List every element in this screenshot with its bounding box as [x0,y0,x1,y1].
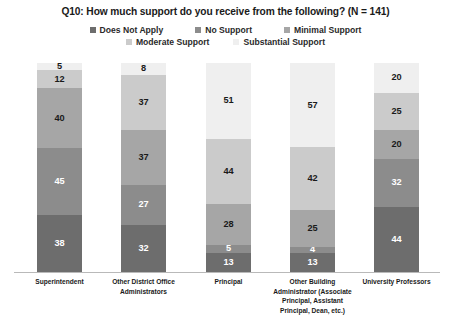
bar-column[interactable]: 512404538 [37,63,82,272]
bar-segment-value: 44 [223,167,233,176]
legend-label: Does Not Apply [100,25,164,35]
legend-swatch-icon [284,27,290,33]
bar-segment-value: 20 [391,140,401,149]
bar-segment[interactable]: 57 [290,63,335,147]
chart-title: Q10: How much support do you receive fro… [0,6,451,17]
category-label-line: Administrators [91,287,196,297]
bar-stack: 512404538 [37,63,82,272]
plot-area: 5124045388373727325144285135742254132025… [0,63,451,272]
bar-segment-value: 28 [223,220,233,229]
bar-column[interactable]: 837372732 [121,63,166,272]
bar-segment[interactable]: 13 [206,253,251,272]
bar-segment-value: 32 [391,178,401,187]
stacked-bar-chart: Q10: How much support do you receive fro… [0,0,451,334]
bar-segment-value: 13 [307,258,317,267]
bar-segment[interactable]: 8 [121,63,166,75]
category-label-line: Principal, Assistant [260,296,365,306]
bar-segment[interactable]: 13 [290,253,335,272]
bar-segment-value: 37 [138,98,148,107]
bar-segment[interactable]: 32 [121,225,166,272]
legend-item-moderate-support[interactable]: Moderate Support [126,37,210,47]
legend-row-1: Does Not Apply No Support Minimal Suppor… [0,25,451,35]
x-axis-category-label: University Professors [344,277,449,287]
x-axis-baseline [14,272,440,273]
bar-segment[interactable]: 28 [206,204,251,246]
legend-swatch-icon [233,39,239,45]
category-label-line: Principal, Dean, etc.) [260,306,365,316]
bar-segment-value: 13 [223,258,233,267]
bar-segment-value: 5 [57,63,62,70]
bar-segment[interactable]: 27 [121,185,166,225]
bar-segment[interactable]: 37 [121,130,166,185]
legend-item-does-not-apply[interactable]: Does Not Apply [90,25,164,35]
bar-segment-value: 57 [307,101,317,110]
legend-label: Minimal Support [294,25,361,35]
bar-segment[interactable]: 44 [374,207,419,272]
legend-row-2: Moderate Support Substantial Support [0,37,451,47]
bar-segment[interactable]: 51 [206,63,251,139]
bar-segment-value: 37 [138,153,148,162]
bar-segment-value: 44 [391,235,401,244]
legend-label: No Support [205,25,252,35]
bar-segment[interactable]: 20 [374,63,419,93]
bar-segment-value: 20 [391,73,401,82]
legend-swatch-icon [195,27,201,33]
bar-column[interactable]: 514428513 [206,63,251,272]
bar-segment-value: 38 [54,239,64,248]
legend-item-substantial-support[interactable]: Substantial Support [233,37,325,47]
legend-label: Substantial Support [243,37,325,47]
category-label-line: University Professors [344,277,449,287]
legend-item-no-support[interactable]: No Support [195,25,252,35]
category-label-line: Administrator (Associate [260,287,365,297]
legend-item-minimal-support[interactable]: Minimal Support [284,25,361,35]
bar-stack: 574225413 [290,63,335,272]
bar-segment-value: 45 [54,177,64,186]
bar-column[interactable]: 574225413 [290,63,335,272]
bar-segment[interactable]: 32 [374,159,419,206]
bar-segment-value: 5 [226,245,231,252]
bar-segment[interactable]: 25 [374,93,419,130]
bar-segment-value: 42 [307,174,317,183]
bar-segment[interactable]: 20 [374,130,419,160]
legend-swatch-icon [90,27,96,33]
bar-segment[interactable]: 5 [206,245,251,252]
bar-segment[interactable]: 5 [37,63,82,70]
bar-segment-value: 27 [138,200,148,209]
bar-segment[interactable]: 25 [290,210,335,247]
bar-segment-value: 40 [54,114,64,123]
bar-segment[interactable]: 44 [206,139,251,204]
bar-segment-value: 12 [54,75,64,84]
legend-label: Moderate Support [136,37,210,47]
bar-segment-value: 8 [141,64,146,73]
bar-segment[interactable]: 12 [37,70,82,88]
bar-segment[interactable]: 42 [290,147,335,209]
chart-legend: Does Not Apply No Support Minimal Suppor… [0,25,451,47]
legend-swatch-icon [126,39,132,45]
bar-segment-value: 51 [223,96,233,105]
bar-segment-value: 25 [307,224,317,233]
bar-segment[interactable]: 37 [121,75,166,130]
bar-segment-value: 32 [138,244,148,253]
bar-segment[interactable]: 45 [37,148,82,215]
bar-stack: 837372732 [121,63,166,272]
bar-column[interactable]: 2025203244 [374,63,419,272]
bar-stack: 514428513 [206,63,251,272]
bar-stack: 2025203244 [374,63,419,272]
bar-segment[interactable]: 38 [37,215,82,272]
bar-segment-value: 25 [391,107,401,116]
bar-segment[interactable]: 40 [37,88,82,148]
